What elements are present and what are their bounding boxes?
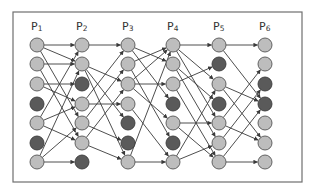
node-light bbox=[121, 155, 135, 169]
node-dark bbox=[258, 77, 272, 91]
node-light bbox=[212, 38, 226, 52]
node-light bbox=[212, 155, 226, 169]
node-light bbox=[121, 77, 135, 91]
node-light bbox=[212, 77, 226, 91]
node-dark bbox=[75, 77, 89, 91]
node-light bbox=[30, 77, 44, 91]
diagram-frame bbox=[13, 12, 302, 182]
node-light bbox=[30, 57, 44, 71]
node-dark bbox=[258, 97, 272, 111]
node-light bbox=[75, 57, 89, 71]
node-dark bbox=[212, 97, 226, 111]
node-light bbox=[121, 97, 135, 111]
node-light bbox=[258, 57, 272, 71]
node-light bbox=[166, 38, 180, 52]
node-light bbox=[258, 136, 272, 150]
node-dark bbox=[75, 155, 89, 169]
node-light bbox=[212, 136, 226, 150]
node-light bbox=[166, 57, 180, 71]
node-light bbox=[258, 38, 272, 52]
node-light bbox=[166, 77, 180, 91]
node-dark bbox=[166, 97, 180, 111]
node-light bbox=[75, 116, 89, 130]
node-light bbox=[121, 57, 135, 71]
node-light bbox=[30, 38, 44, 52]
node-light bbox=[166, 116, 180, 130]
node-light bbox=[75, 97, 89, 111]
node-light bbox=[166, 155, 180, 169]
node-light bbox=[258, 155, 272, 169]
node-light bbox=[30, 116, 44, 130]
node-dark bbox=[30, 136, 44, 150]
node-light bbox=[75, 136, 89, 150]
node-light bbox=[212, 116, 226, 130]
node-dark bbox=[166, 136, 180, 150]
diagram-canvas: P1P2P3P4P5P6 bbox=[0, 0, 310, 190]
node-dark bbox=[212, 57, 226, 71]
node-dark bbox=[30, 97, 44, 111]
node-light bbox=[75, 38, 89, 52]
node-light bbox=[30, 155, 44, 169]
node-dark bbox=[121, 116, 135, 130]
node-light bbox=[258, 116, 272, 130]
node-light bbox=[121, 38, 135, 52]
node-dark bbox=[121, 136, 135, 150]
